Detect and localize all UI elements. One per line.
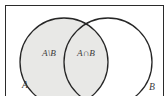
set-label-b: B — [149, 81, 155, 92]
set-label-a: A — [21, 79, 28, 90]
region-label-a-intersect-b: A∩B — [76, 48, 95, 58]
venn-diagram-canvas: A\B A∩B A B — [0, 0, 164, 96]
region-label-a-minus-b: A\B — [41, 48, 56, 58]
venn-diagram-figure: A\B A∩B A B — [0, 0, 164, 96]
